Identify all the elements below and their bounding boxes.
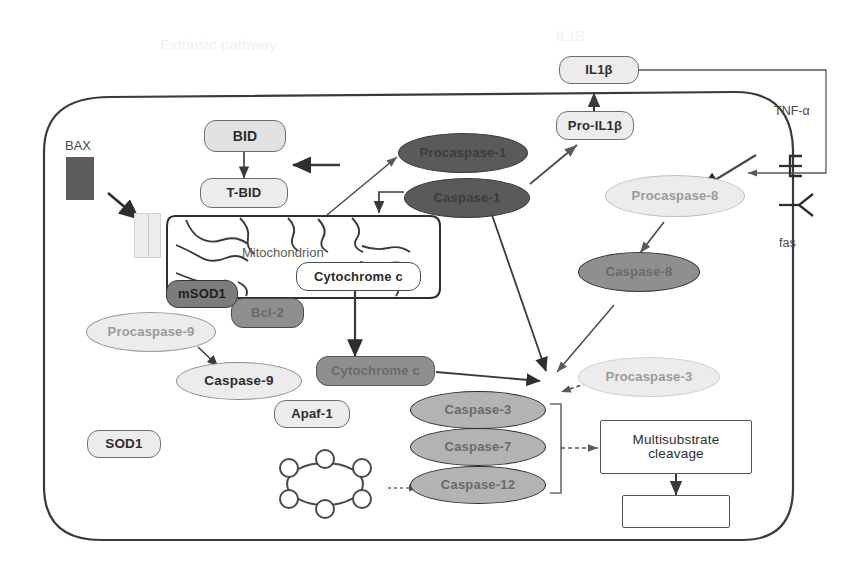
node-caspase1-label: Caspase-1 (434, 191, 501, 205)
node-tbid-label: T-BID (227, 186, 262, 200)
node-cytochrome-c-mitochondrial[interactable]: Cytochrome c (296, 262, 421, 291)
apoptosome-complex (280, 450, 371, 518)
node-pro-il1b-label: Pro-IL1β (568, 119, 622, 133)
node-procaspase9[interactable]: Procaspase-9 (86, 312, 216, 352)
node-sod1[interactable]: SOD1 (87, 430, 161, 458)
node-cytochrome-c-cytosolic[interactable]: Cytochrome c (316, 356, 435, 386)
node-tbid[interactable]: T-BID (200, 178, 288, 208)
apoptosis-pathway-diagram: Extrinsic pathway IL1B BAX BID T-BID Mit… (0, 0, 847, 568)
ghost-title-left: Extrinsic pathway (160, 36, 277, 53)
node-bid[interactable]: BID (204, 120, 286, 152)
fas-label: fas (779, 236, 796, 250)
node-caspase7-label: Caspase-7 (445, 440, 512, 454)
tnf-alpha-label: TNF-α (774, 104, 810, 118)
node-procaspase3-label: Procaspase-3 (606, 370, 693, 384)
node-bcl2-label: Bcl-2 (251, 306, 284, 320)
arrow-caspase1-to-proil1b (530, 145, 577, 184)
node-apaf1[interactable]: Apaf-1 (274, 400, 350, 428)
node-procaspase9-label: Procaspase-9 (108, 325, 195, 339)
mitochondrion-label: Mitochondrion (242, 245, 324, 260)
node-caspase7[interactable]: Caspase-7 (410, 428, 546, 466)
node-caspase12[interactable]: Caspase-12 (410, 466, 546, 504)
node-procaspase3[interactable]: Procaspase-3 (578, 357, 720, 397)
ghost-title-top: IL1B (556, 28, 585, 44)
effector-caspase-bracket (550, 404, 561, 493)
node-multisubstrate-cleavage-label: Multisubstrate cleavage (607, 433, 745, 461)
node-caspase3-label: Caspase-3 (445, 403, 512, 417)
node-msod1[interactable]: mSOD1 (166, 280, 238, 308)
node-bid-label: BID (233, 129, 258, 144)
fas-receptor (779, 194, 813, 216)
node-procaspase1-label: Procaspase-1 (420, 146, 507, 160)
node-cytochrome-c-mitochondrial-label: Cytochrome c (314, 270, 403, 284)
node-procaspase8-label: Procaspase-8 (632, 189, 719, 203)
arrow-caspase1-to-effector (492, 215, 546, 371)
bax-label: BAX (65, 138, 91, 153)
arrow-cytc-to-effector (436, 372, 540, 381)
line-il1b-to-tnfr (639, 70, 826, 173)
node-caspase3[interactable]: Caspase-3 (410, 391, 546, 429)
membrane-pore (134, 213, 161, 258)
node-caspase1[interactable]: Caspase-1 (404, 178, 530, 218)
arrow-procaspase8-to-caspase8 (640, 222, 664, 253)
node-il1b-label: IL1β (585, 63, 613, 77)
node-sod1-label: SOD1 (105, 437, 143, 451)
node-cytochrome-c-cytosolic-label: Cytochrome c (331, 364, 420, 378)
node-procaspase8[interactable]: Procaspase-8 (605, 175, 745, 217)
node-procaspase1[interactable]: Procaspase-1 (398, 133, 528, 173)
node-outcome[interactable] (622, 495, 730, 528)
node-il1b[interactable]: IL1β (559, 56, 639, 84)
node-apaf1-label: Apaf-1 (291, 407, 333, 421)
node-bcl2[interactable]: Bcl-2 (231, 298, 304, 328)
node-multisubstrate-cleavage[interactable]: Multisubstrate cleavage (600, 420, 752, 474)
node-msod1-label: mSOD1 (178, 287, 226, 301)
node-caspase12-label: Caspase-12 (441, 478, 515, 492)
node-caspase9[interactable]: Caspase-9 (176, 362, 302, 400)
node-caspase9-label: Caspase-9 (204, 374, 273, 388)
arrow-caspase1-to-mito (379, 192, 404, 213)
bax-protein-block (66, 157, 94, 200)
node-pro-il1b[interactable]: Pro-IL1β (556, 111, 634, 140)
node-caspase8[interactable]: Caspase-8 (578, 252, 700, 292)
node-caspase8-label: Caspase-8 (606, 265, 673, 279)
